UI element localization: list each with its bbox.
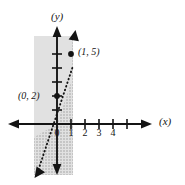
x-axis-left-arrowhead (8, 120, 19, 129)
point-label-0-2: (0, 2) (18, 91, 40, 101)
point-marker-1-5 (68, 51, 74, 57)
y-axis-top-arrowhead (53, 26, 62, 37)
y-axis-label: (y) (51, 11, 63, 22)
boundary-line-upper-arrowhead (69, 30, 79, 41)
inequality-graph-figure: (y) (x) (1, 5) (0, 2) 0 1 2 3 4 (0, 0, 185, 185)
point-marker-0-2 (54, 93, 60, 99)
tick-label-1: 1 (66, 128, 76, 138)
point-label-1-5: (1, 5) (78, 47, 100, 57)
x-axis-label: (x) (159, 116, 171, 127)
x-axis-right-arrowhead (141, 120, 152, 129)
tick-label-0: 0 (52, 128, 62, 138)
tick-label-3: 3 (94, 128, 104, 138)
tick-label-2: 2 (80, 128, 90, 138)
tick-label-4: 4 (108, 128, 118, 138)
